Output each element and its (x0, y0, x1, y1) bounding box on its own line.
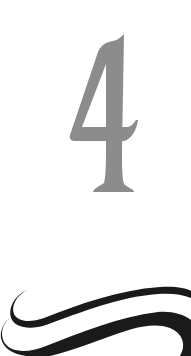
ornamental-swash-icon (0, 270, 191, 356)
chapter-number-four: 4 (0, 0, 191, 200)
